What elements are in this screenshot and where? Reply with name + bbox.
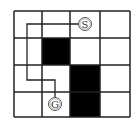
blocked-cell [42, 38, 70, 65]
goal-marker: G [49, 98, 62, 111]
blocked-cell [70, 92, 100, 117]
blocked-cell [70, 65, 100, 92]
maze-diagram: S G [0, 0, 139, 127]
start-label: S [82, 19, 89, 30]
start-marker: S [79, 18, 92, 31]
goal-label: G [51, 99, 59, 110]
